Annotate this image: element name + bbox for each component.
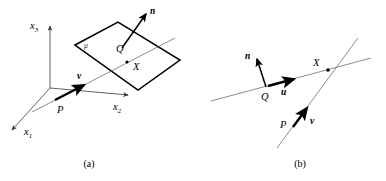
axis-label-x1: x1 <box>23 126 32 140</box>
axis-label-x1-subscript: 1 <box>29 132 33 140</box>
axis-x1-line <box>12 88 50 130</box>
vector-v-label-a: v <box>77 71 82 81</box>
axis-label-x3: x3 <box>29 20 39 34</box>
vector-v-b <box>293 108 307 127</box>
point-X-dot-a <box>125 60 128 63</box>
figure-svg: x3 x2 x1 μ v P X n Q (a) <box>0 0 386 181</box>
point-Q-label-b: Q <box>261 91 269 102</box>
point-X-label-b: X <box>312 57 320 68</box>
point-P-label-b: P <box>279 119 287 130</box>
point-X-label-a: X <box>132 61 140 72</box>
vector-n-label-a: n <box>150 6 155 16</box>
point-P-label-a: P <box>56 104 64 115</box>
plane-mu-parallelogram <box>75 22 180 90</box>
caption-a: (a) <box>83 158 94 170</box>
axis-label-x3-subscript: 3 <box>34 26 39 34</box>
axis-x2-line <box>50 88 128 95</box>
axes-group-a <box>12 26 128 130</box>
point-X-dot-b <box>326 68 330 72</box>
vector-n-b <box>257 59 266 87</box>
vector-v-a <box>55 85 84 100</box>
vector-u-b <box>268 79 294 86</box>
panel-a: x3 x2 x1 μ v P X n Q (a) <box>12 6 180 170</box>
vector-n-a <box>122 14 146 48</box>
figure-container: x3 x2 x1 μ v P X n Q (a) <box>0 0 386 181</box>
axis-label-x2-subscript: 2 <box>118 107 122 115</box>
vector-u-label-b: u <box>281 87 286 97</box>
plane-mu-label: μ <box>84 41 88 50</box>
panel-b: n Q u X v P (b) <box>211 38 371 170</box>
line-through-P-X <box>32 38 175 112</box>
caption-b: (b) <box>294 158 306 170</box>
axis-label-x2: x2 <box>112 101 122 115</box>
vector-n-label-b: n <box>245 51 250 61</box>
point-Q-label-a: Q <box>116 43 124 54</box>
vector-v-label-b: v <box>310 116 315 126</box>
line-through-P-X-b <box>277 38 358 148</box>
